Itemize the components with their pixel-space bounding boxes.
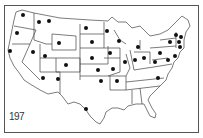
dots-layer: [0, 0, 203, 138]
state-dot-mo: [111, 67, 115, 71]
state-dot-ut: [43, 54, 47, 58]
state-dot-ca: [8, 49, 12, 53]
state-dot-ks: [96, 68, 100, 72]
state-dot-nc: [156, 76, 160, 80]
state-dot-pa: [158, 51, 162, 55]
state-dot-nd: [84, 26, 88, 30]
state-dot-tx: [84, 107, 88, 111]
state-dot-oh: [142, 56, 146, 60]
state-dot-ma: [177, 40, 181, 44]
state-dot-wy: [57, 41, 61, 45]
state-dot-id: [37, 20, 41, 24]
state-dot-nh: [179, 35, 183, 39]
state-dot-co: [64, 63, 68, 67]
state-dot-az: [41, 76, 45, 80]
state-dot-in: [133, 58, 137, 62]
map-label: 197: [9, 111, 24, 122]
state-dot-ia: [108, 51, 112, 55]
state-dot-mt: [47, 19, 51, 23]
state-dot-ct: [178, 45, 182, 49]
state-dot-mi: [136, 45, 140, 49]
state-dot-mn-north: [105, 29, 109, 33]
state-dot-md: [166, 58, 170, 62]
state-dot-wa: [21, 13, 25, 17]
state-dot-nj: [173, 54, 177, 58]
state-dot-or: [15, 31, 19, 35]
state-dot-vt: [174, 33, 178, 37]
state-dot-ok: [99, 79, 103, 83]
state-dot-nm: [56, 77, 60, 81]
state-dot-wi: [117, 39, 121, 43]
state-dot-sd: [90, 40, 94, 44]
state-dot-il: [123, 60, 127, 64]
state-dot-ny: [168, 40, 172, 44]
state-dot-nv: [31, 50, 35, 54]
state-dot-ar: [115, 79, 119, 83]
state-dot-ne: [90, 56, 94, 60]
state-dot-wv: [153, 60, 157, 64]
